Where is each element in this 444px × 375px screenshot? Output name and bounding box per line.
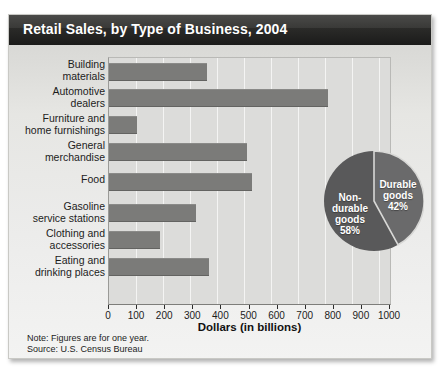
x-tick-1000: [389, 305, 390, 309]
x-tick-400: [220, 305, 221, 309]
category-label-furniture-home-furnishings: Furniture and home furnishings: [9, 113, 105, 136]
pie-chart: Non- durable goods 58% Durable goods 42%: [324, 151, 424, 251]
x-tick-label-800: 800: [324, 310, 341, 321]
pie-label-nondurable-percent: 58%: [340, 225, 360, 236]
bar-eating-drinking-places: [109, 258, 209, 276]
x-axis-title: Dollars (in billions): [108, 321, 391, 333]
bar-clothing-accessories: [109, 231, 160, 249]
x-tick-900: [361, 305, 362, 309]
category-label-automotive-dealers: Automotive dealers: [9, 86, 105, 109]
category-label-food: Food: [9, 174, 105, 186]
x-tick-label-600: 600: [268, 310, 285, 321]
x-tick-label-500: 500: [240, 310, 257, 321]
x-tick-label-1000: 1000: [378, 310, 400, 321]
pie-label-nondurable-text: Non- durable goods: [332, 192, 368, 225]
category-label-general-merchandise: General merchandise: [9, 140, 105, 163]
x-tick-label-200: 200: [156, 310, 173, 321]
x-tick-label-100: 100: [128, 310, 145, 321]
category-label-eating-drinking-places: Eating and drinking places: [9, 255, 105, 278]
chart-notes: Note: Figures are for one year. Source: …: [27, 333, 149, 355]
pie-label-durable-goods: Durable goods 42%: [373, 168, 423, 212]
bar-general-merchandise: [109, 143, 247, 161]
category-label-gasoline-service-stations: Gasoline service stations: [9, 201, 105, 224]
x-tick-600: [277, 305, 278, 309]
bar-furniture-home-furnishings: [109, 116, 137, 134]
category-axis-labels: Building materials Automotive dealers Fu…: [9, 57, 105, 305]
x-tick-0: [108, 305, 109, 309]
x-tick-300: [192, 305, 193, 309]
x-tick-label-0: 0: [105, 310, 111, 321]
x-tick-700: [305, 305, 306, 309]
bar-food: [109, 173, 252, 191]
x-tick-500: [249, 305, 250, 309]
pie-label-durable-text: Durable goods: [379, 179, 416, 201]
x-tick-label-300: 300: [184, 310, 201, 321]
x-tick-label-700: 700: [296, 310, 313, 321]
source-line: Source: U.S. Census Bureau: [27, 344, 149, 355]
category-label-clothing-accessories: Clothing and accessories: [9, 228, 105, 251]
page-title: Retail Sales, by Type of Business, 2004: [23, 21, 287, 37]
pie-label-nondurable-goods: Non- durable goods 58%: [326, 181, 374, 236]
note-line: Note: Figures are for one year.: [27, 333, 149, 344]
bar-gasoline-service-stations: [109, 204, 196, 222]
pie-label-durable-percent: 42%: [388, 201, 408, 212]
bar-automotive-dealers: [109, 89, 328, 107]
x-tick-100: [136, 305, 137, 309]
category-label-building-materials: Building materials: [9, 59, 105, 82]
chart-title-bar: Retail Sales, by Type of Business, 2004: [9, 15, 432, 45]
x-tick-200: [164, 305, 165, 309]
chart-figure: Retail Sales, by Type of Business, 2004 …: [8, 14, 432, 359]
x-tick-label-900: 900: [353, 310, 370, 321]
x-tick-label-400: 400: [212, 310, 229, 321]
x-tick-800: [333, 305, 334, 309]
bar-building-materials: [109, 63, 207, 81]
